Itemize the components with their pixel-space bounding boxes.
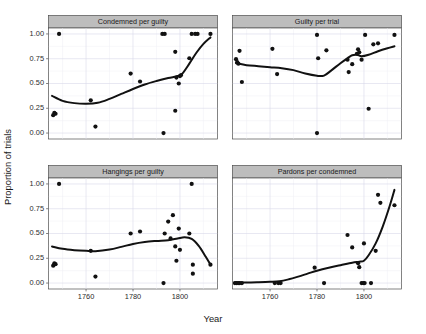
- data-point: [362, 241, 366, 245]
- data-point: [324, 48, 328, 52]
- x-axis-title: Year: [204, 313, 223, 324]
- data-point: [178, 248, 182, 252]
- facet-panel: Pardons per condemned: [233, 166, 402, 290]
- data-point: [129, 231, 133, 235]
- panel-title: Pardons per condemned: [278, 167, 357, 176]
- data-point: [367, 107, 371, 111]
- data-point: [138, 79, 142, 83]
- data-point: [236, 62, 240, 66]
- data-point: [345, 233, 349, 237]
- x-axis-tick-label: 1780: [125, 292, 141, 301]
- data-point: [345, 58, 349, 62]
- data-point: [316, 56, 320, 60]
- data-point: [171, 213, 175, 217]
- data-point: [190, 182, 194, 186]
- data-point: [138, 229, 142, 233]
- data-point: [161, 281, 165, 285]
- x-axis-tick-label: 1760: [262, 292, 278, 301]
- y-axis-tick-label: 1.00: [30, 29, 44, 38]
- plot-canvas: Condemned per guiltyGuilty per trialHang…: [0, 0, 426, 334]
- y-axis-tick-label: 1.00: [30, 179, 44, 188]
- y-axis-tick-label: 0.00: [30, 278, 44, 287]
- panel-title: Guilty per trial: [295, 17, 340, 26]
- data-point: [350, 62, 354, 66]
- data-point: [57, 32, 61, 36]
- y-axis-tick-label: 0.50: [30, 228, 44, 237]
- data-point: [240, 80, 244, 84]
- data-point: [163, 32, 167, 36]
- data-point: [57, 182, 61, 186]
- data-point: [168, 236, 172, 240]
- data-point: [187, 56, 191, 60]
- data-point: [363, 33, 367, 37]
- data-point: [374, 249, 378, 253]
- data-point: [357, 265, 361, 269]
- data-point: [173, 50, 177, 54]
- data-point: [279, 281, 283, 285]
- facet-panel: Condemned per guilty: [49, 16, 218, 140]
- data-point: [93, 275, 97, 279]
- data-point: [208, 263, 212, 267]
- data-point: [195, 32, 199, 36]
- data-point: [322, 281, 326, 285]
- panel-title: Hangings per guilty: [102, 167, 164, 176]
- data-point: [191, 272, 195, 276]
- data-point: [376, 193, 380, 197]
- y-axis-tick-label: 0.75: [30, 54, 44, 63]
- x-axis-tick-label: 1780: [309, 292, 325, 301]
- data-point: [237, 49, 241, 53]
- data-point: [53, 262, 57, 266]
- data-point: [173, 109, 177, 113]
- data-point: [166, 220, 170, 224]
- facet-panel: Guilty per trial: [233, 16, 402, 140]
- data-point: [89, 249, 93, 253]
- data-point: [163, 231, 167, 235]
- data-point: [177, 81, 181, 85]
- data-point: [177, 226, 181, 230]
- data-point: [363, 281, 367, 285]
- data-point: [357, 50, 361, 54]
- data-point: [93, 125, 97, 129]
- data-point: [392, 203, 396, 207]
- y-axis-tick-label: 0.25: [30, 253, 44, 262]
- data-point: [129, 71, 133, 75]
- data-point: [179, 73, 183, 77]
- data-point: [89, 98, 93, 102]
- y-axis-tick-label: 0.00: [30, 128, 44, 137]
- data-point: [275, 72, 279, 76]
- data-point: [350, 245, 354, 249]
- y-axis-tick-label: 0.25: [30, 103, 44, 112]
- x-axis-tick-label: 1760: [78, 292, 94, 301]
- x-axis-tick-label: 1800: [356, 292, 372, 301]
- data-point: [187, 231, 191, 235]
- facet-panel: Hangings per guilty: [49, 166, 218, 290]
- data-point: [360, 58, 364, 62]
- data-point: [371, 42, 375, 46]
- data-point: [392, 33, 396, 37]
- y-axis-tick-label: 0.75: [30, 204, 44, 213]
- data-point: [315, 131, 319, 135]
- facet-plot-figure: Condemned per guiltyGuilty per trialHang…: [0, 0, 426, 334]
- data-point: [240, 281, 244, 285]
- data-point: [53, 112, 57, 116]
- data-point: [208, 32, 212, 36]
- x-axis-tick-label: 1800: [172, 292, 188, 301]
- data-point: [315, 33, 319, 37]
- data-point: [376, 41, 380, 45]
- data-point: [369, 281, 373, 285]
- data-point: [356, 261, 360, 265]
- data-point: [174, 259, 178, 263]
- panel-title: Condemned per guilty: [98, 17, 169, 26]
- data-point: [378, 201, 382, 205]
- y-axis-title: Proportion of trials: [2, 129, 13, 205]
- data-point: [173, 244, 177, 248]
- data-point: [161, 131, 165, 135]
- y-axis-tick-label: 0.50: [30, 78, 44, 87]
- data-point: [313, 266, 317, 270]
- data-point: [191, 263, 195, 267]
- data-point: [270, 47, 274, 51]
- data-point: [347, 70, 351, 74]
